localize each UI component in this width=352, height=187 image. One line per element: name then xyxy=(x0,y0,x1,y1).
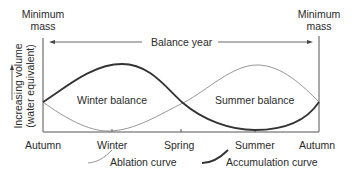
legend-accumulation-swatch xyxy=(202,150,228,163)
y-axis-label: Increasing volume (water equivalent) xyxy=(12,43,36,128)
x-label-autumn-end: Autumn xyxy=(299,139,335,151)
y-axis-label-line1: Increasing volume xyxy=(12,43,24,128)
y-axis-label-line2: (water equivalent) xyxy=(24,43,36,128)
x-label-winter: Winter xyxy=(97,139,127,151)
summer-balance-label: Summer balance xyxy=(215,94,294,106)
balance-year-arrow-left xyxy=(49,40,142,44)
left-minimum-line2: mass xyxy=(18,20,68,32)
right-minimum-line1: Minimum xyxy=(293,8,345,20)
x-label-summer: Summer xyxy=(235,139,275,151)
left-minimum-line1: Minimum xyxy=(18,8,68,20)
legend-ablation-swatch xyxy=(88,150,112,163)
x-label-spring: Spring xyxy=(164,139,194,151)
balance-year-arrow-right xyxy=(218,40,313,44)
winter-balance-label: Winter balance xyxy=(77,94,147,106)
x-label-autumn-start: Autumn xyxy=(25,139,61,151)
balance-year-label: Balance year xyxy=(151,36,212,48)
legend-ablation-label: Ablation curve xyxy=(110,156,177,168)
right-minimum-mass-label: Minimum mass xyxy=(293,8,345,32)
left-minimum-mass-label: Minimum mass xyxy=(18,8,68,32)
right-minimum-line2: mass xyxy=(293,20,345,32)
legend-accumulation-label: Accumulation curve xyxy=(226,156,318,168)
